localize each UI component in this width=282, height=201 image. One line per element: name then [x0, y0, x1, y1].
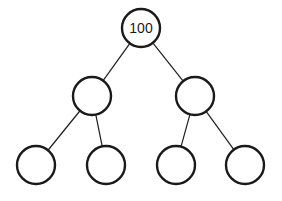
- node-circle: [226, 146, 264, 184]
- tree-diagram: 100: [0, 0, 282, 201]
- tree-node-right: [176, 77, 214, 115]
- node-circle: [73, 77, 111, 115]
- tree-edge-left-left-right: [96, 115, 102, 147]
- tree-node-left-right: [87, 146, 125, 184]
- tree-edge-left-left-left: [48, 111, 80, 150]
- tree-node-left: [73, 77, 111, 115]
- tree-edge-right-right-right: [206, 111, 234, 149]
- tree-edge-root-right: [153, 43, 183, 81]
- tree-node-right-left: [157, 146, 195, 184]
- tree-node-left-left: [17, 146, 55, 184]
- node-circle: [17, 146, 55, 184]
- tree-node-right-right: [226, 146, 264, 184]
- tree-nodes: 100: [17, 9, 264, 184]
- node-circle: [176, 77, 214, 115]
- node-circle: [87, 146, 125, 184]
- tree-edge-root-left: [103, 43, 130, 80]
- tree-edge-right-right-left: [181, 114, 190, 146]
- tree-node-root: 100: [122, 9, 160, 47]
- node-circle: [157, 146, 195, 184]
- node-label: 100: [129, 20, 153, 36]
